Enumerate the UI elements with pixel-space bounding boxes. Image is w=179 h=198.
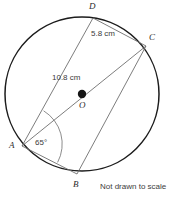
measurement-label-AC: 10.8 cm [52, 74, 80, 82]
vertex-label-A: A [9, 141, 15, 150]
vertex-label-D: D [89, 2, 96, 11]
angle-label-BAD: 65° [35, 139, 47, 147]
geometry-canvas [0, 0, 179, 198]
not-drawn-to-scale-note: Not drawn to scale [100, 183, 166, 191]
angle-arc-BAD [44, 111, 63, 163]
measurement-label-DC: 5.8 cm [91, 30, 115, 38]
chord-A-B-line [22, 146, 77, 174]
vertex-label-B: B [73, 180, 79, 189]
center-label-O: O [79, 101, 86, 110]
chord-B-C-line [77, 46, 146, 174]
vertex-label-C: C [149, 33, 155, 42]
circle-geometry-figure: A B C D O 5.8 cm 10.8 cm 65° Not drawn t… [0, 0, 179, 198]
chord-A-D-line [22, 18, 93, 146]
center-point-dot [78, 90, 86, 98]
